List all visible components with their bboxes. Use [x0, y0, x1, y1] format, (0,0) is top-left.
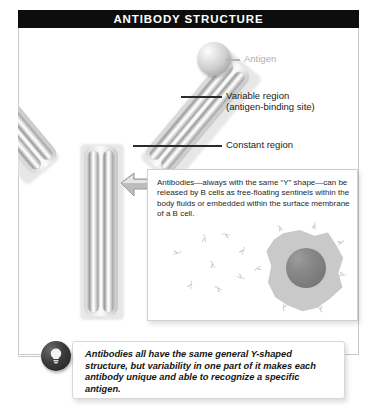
antibody-arm-right: [142, 54, 253, 177]
page-title: ANTIBODY STRUCTURE: [113, 13, 263, 25]
callout-box: Antibodies—always with the same “Y” shap…: [147, 169, 358, 321]
free-floating-antibody: λ: [201, 234, 208, 245]
antibody-stem: [84, 146, 118, 316]
free-floating-antibody: λ: [235, 272, 246, 282]
constant-region-leader-line: [133, 145, 222, 147]
free-floating-antibody: λ: [209, 260, 215, 271]
free-floating-antibody: λ: [237, 246, 247, 257]
membrane-bound-antibody: λ: [335, 239, 345, 246]
variable-region-label-line2: (antigen-binding site): [226, 101, 315, 113]
free-floating-antibody: λ: [221, 230, 232, 240]
stem-chain-1: [88, 151, 99, 312]
membrane-bound-antibody: λ: [281, 302, 288, 312]
membrane-bound-antibody: λ: [317, 304, 323, 314]
antibody-arm-left: [18, 54, 60, 177]
antigen-leader-line: [226, 59, 240, 61]
antibody-structure-figure: ANTIBODY STRUCTURE: [0, 0, 378, 408]
membrane-bound-antibody: λ: [276, 223, 284, 233]
variable-region-label-line1: Variable region: [226, 90, 289, 102]
lightbulb-icon: [41, 341, 71, 371]
variable-region-leader-line: [181, 96, 222, 98]
free-floating-antibody: λ: [186, 279, 195, 290]
callout-text: Antibodies—always with the same “Y” shap…: [157, 178, 353, 220]
membrane-bound-antibody: λ: [253, 265, 263, 272]
summary-text: Antibodies all have the same general Y-s…: [85, 349, 337, 395]
callout-arrow-icon: [120, 172, 150, 198]
constant-region-label: Constant region: [226, 139, 293, 151]
antigen-label: Antigen: [244, 53, 276, 65]
free-floating-antibody: λ: [171, 250, 181, 256]
free-floating-antibody: λ: [213, 284, 223, 295]
summary-hook-line: [18, 356, 43, 357]
summary-box: Antibodies all have the same general Y-s…: [72, 341, 345, 399]
stem-chain-2: [103, 151, 114, 312]
b-cell-nucleus: [286, 248, 326, 288]
figure-title-bar: ANTIBODY STRUCTURE: [18, 10, 359, 28]
b-cell-scene: λ λ λ λ λ λ λ λ λ λ λ λ λ λ λ: [152, 224, 355, 318]
membrane-bound-antibody: λ: [311, 222, 318, 232]
